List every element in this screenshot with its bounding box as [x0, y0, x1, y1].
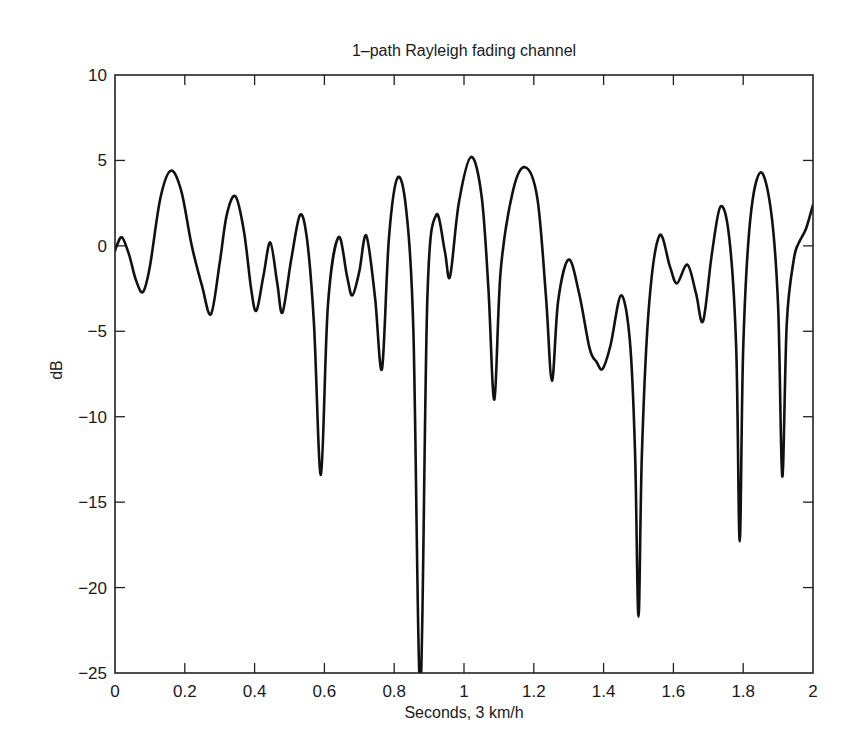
x-tick-label: 1.8 [731, 682, 755, 701]
y-axis-label: dB [48, 360, 65, 380]
x-tick-label: 1.2 [522, 682, 546, 701]
y-tick-label: −20 [78, 579, 107, 598]
y-tick-label: −15 [78, 493, 107, 512]
x-tick-label: 1.6 [662, 682, 686, 701]
x-axis-ticks: 00.20.40.60.811.21.41.61.82 [110, 75, 817, 701]
x-axis-label: Seconds, 3 km/h [404, 704, 523, 721]
x-tick-label: 1 [459, 682, 468, 701]
y-tick-label: 0 [98, 237, 107, 256]
fading-curve [115, 157, 813, 690]
x-tick-label: 0.2 [173, 682, 197, 701]
y-tick-label: 10 [88, 66, 107, 85]
chart-title: 1–path Rayleigh fading channel [352, 42, 576, 59]
x-tick-label: 1.4 [592, 682, 616, 701]
x-tick-label: 0.4 [243, 682, 267, 701]
y-tick-label: −25 [78, 664, 107, 683]
y-tick-label: −10 [78, 408, 107, 427]
x-tick-label: 0.8 [382, 682, 406, 701]
x-tick-label: 0.6 [313, 682, 337, 701]
plot-area [115, 157, 813, 690]
x-tick-label: 2 [808, 682, 817, 701]
x-tick-label: 0 [110, 682, 119, 701]
axes-frame [115, 75, 813, 673]
y-axis-ticks: 1050−5−10−15−20−25 [78, 66, 813, 683]
y-tick-label: −5 [88, 322, 107, 341]
y-tick-label: 5 [98, 151, 107, 170]
fading-chart: 1–path Rayleigh fading channel 1050−5−10… [0, 0, 855, 747]
